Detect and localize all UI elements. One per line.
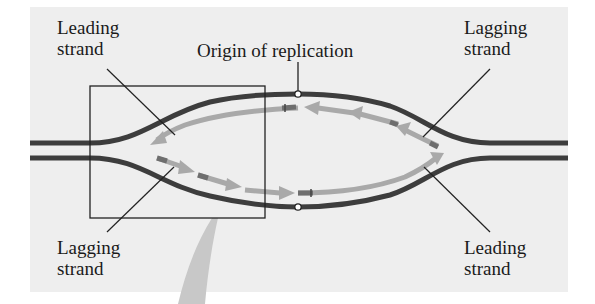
label-leading-strand-top-left: Leading strand (57, 17, 119, 59)
leading-strand-bottom (298, 152, 444, 197)
lagging-strand-top (304, 101, 438, 147)
label-origin-of-replication: Origin of replication (197, 40, 353, 61)
leader-line-bottom-left (107, 167, 174, 232)
origin-marker-bottom (295, 204, 301, 210)
label-leading-strand-bottom-right: Leading strand (464, 237, 526, 279)
zoom-box (90, 86, 265, 218)
label-lagging-strand-bottom-left: Lagging strand (57, 237, 120, 279)
callout-arrow (178, 218, 218, 304)
leading-strand-top (150, 104, 298, 145)
label-lagging-strand-top-right: Lagging strand (464, 17, 527, 59)
lagging-strand-bottom (157, 158, 295, 200)
parental-strand-top (30, 94, 568, 143)
leader-line-top-right (423, 69, 490, 137)
leader-line-top-left (107, 69, 175, 135)
parental-strand-bottom (30, 158, 568, 207)
origin-marker-top (295, 91, 301, 97)
leader-line-bottom-right (424, 167, 490, 232)
